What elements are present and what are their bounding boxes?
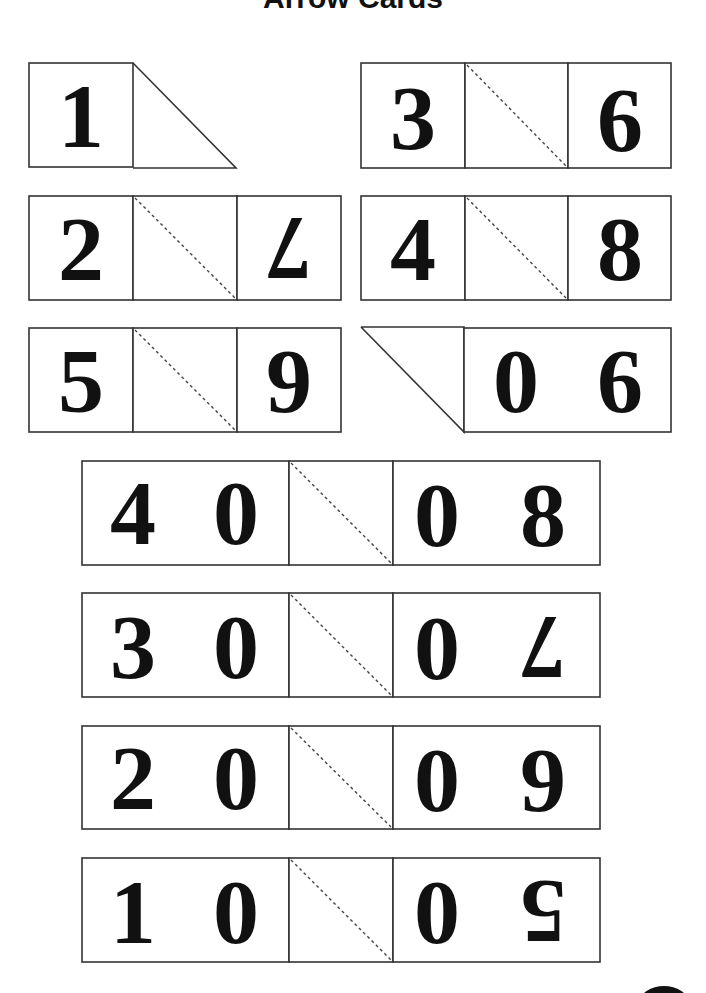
- digit-ones: 6: [597, 330, 643, 432]
- digit-left-tens: 4: [110, 462, 156, 564]
- digit-left-ones: 0: [213, 727, 259, 829]
- digit-left: 4: [390, 198, 436, 300]
- arrow-card-10-5: 1 0 0 5: [82, 858, 600, 963]
- arrow-card-1: 1: [29, 63, 236, 168]
- digit-right-rotated: 7: [266, 198, 312, 300]
- digit-left: 5: [58, 330, 104, 432]
- digit-left-tens: 3: [110, 596, 156, 698]
- digit-left: 3: [390, 67, 436, 169]
- digit-right: 8: [597, 198, 643, 300]
- digit-right: 9: [266, 330, 312, 432]
- arrow-card-20-9: 2 0 0 9: [82, 726, 600, 831]
- digit-right: 6: [597, 69, 643, 171]
- digit-left-tens: 1: [110, 861, 156, 963]
- digit-right-ones: 8: [520, 464, 566, 566]
- arrow-card-3-6: 3 6: [361, 63, 671, 171]
- digit-left-ones: 0: [213, 861, 259, 963]
- digit-right-tens: 0: [414, 729, 460, 831]
- arrow-card-0-6: 0 6: [361, 327, 671, 432]
- digit-right-tens: 0: [414, 861, 460, 963]
- digit-left-tens: 2: [110, 727, 156, 829]
- arrow-triangle-icon: [361, 327, 464, 432]
- digit-right-ones-rotated: 5: [520, 861, 566, 963]
- digit-right-ones: 9: [520, 729, 566, 831]
- digit-right-ones-rotated: 7: [520, 597, 566, 699]
- arrow-cards-sheet: 1 3 6 2 7 4 8 5 9 0: [0, 0, 706, 993]
- digit-right-tens: 0: [414, 464, 460, 566]
- arrow-card-2-7: 2 7: [29, 196, 341, 300]
- arrow-card-30-7: 3 0 0 7: [82, 593, 600, 699]
- arrow-card-40-8: 4 0 0 8: [82, 461, 600, 566]
- digit-left-ones: 0: [213, 462, 259, 564]
- digit-left-ones: 0: [213, 596, 259, 698]
- digit-right-tens: 0: [414, 597, 460, 699]
- corner-circle-icon: [640, 986, 688, 993]
- arrow-card-5-9: 5 9: [29, 328, 341, 432]
- digit-tens: 0: [493, 330, 539, 432]
- digit-left: 2: [58, 198, 104, 300]
- digit-ones: 1: [58, 65, 104, 167]
- arrow-card-4-8: 4 8: [361, 196, 671, 300]
- arrow-triangle-icon: [133, 63, 236, 168]
